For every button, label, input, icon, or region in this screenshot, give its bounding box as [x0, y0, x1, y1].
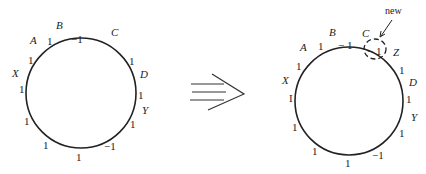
vertex-label: D [139, 68, 148, 80]
edge-weight-label: 1 [43, 139, 49, 151]
vertex-label: Y [411, 111, 419, 123]
edge-weight-label: 1 [406, 93, 412, 105]
vertex-label: Z [393, 46, 400, 58]
edge-weight-label: 1 [399, 64, 405, 76]
edge-weight-label: 1 [129, 55, 135, 67]
vertex-label: B [329, 26, 336, 38]
edge-weight-label: 1 [138, 89, 144, 101]
edge-weight-label: 1 [130, 118, 136, 130]
edge-weight-label: 1 [76, 151, 82, 163]
edge-weight-label: 1 [318, 40, 324, 52]
edge-weight-label: −1 [104, 140, 116, 152]
pointer-arrow-icon [380, 20, 392, 37]
edge-weight-label: 1 [312, 145, 318, 157]
edge-weight-label: 1 [24, 115, 30, 127]
edge-weight-label: 1 [399, 127, 405, 139]
edge-weight-label: 1 [19, 83, 25, 95]
right-labels: B− 1C− 1ZA11XI111−11D1Y1 [281, 26, 419, 169]
edge-weight-label: −1 [71, 33, 83, 45]
new-annotation: new [385, 5, 402, 16]
edge-weight-label: 1 [47, 35, 53, 47]
right-circle [295, 47, 403, 155]
edge-weight-label: − 1 [338, 39, 352, 51]
vertex-label: C [111, 26, 119, 38]
vertex-label: B [56, 19, 63, 31]
edge-weight-label: 1 [28, 54, 34, 66]
edge-weight-label: I [289, 92, 293, 104]
diagram-canvas: B−1CA11X1111−11D1Y1 B− 1C− 1ZA11XI111−11… [0, 0, 426, 174]
edge-weight-label: 1 [345, 157, 351, 169]
left-labels: B−1CA11X1111−11D1Y1 [11, 19, 150, 163]
vertex-label: X [281, 74, 290, 86]
vertex-label: A [299, 41, 307, 53]
vertex-label: C [362, 27, 370, 39]
edge-weight-label: 1 [296, 60, 302, 72]
implies-arrow-icon [190, 74, 244, 110]
edge-weight-label: − 1 [367, 45, 381, 57]
edge-weight-label: −1 [372, 149, 384, 161]
vertex-label: Y [142, 104, 150, 116]
vertex-label: X [11, 67, 20, 79]
edge-weight-label: 1 [292, 121, 298, 133]
vertex-label: A [29, 34, 37, 46]
left-circle [26, 38, 136, 148]
vertex-label: D [408, 76, 417, 88]
